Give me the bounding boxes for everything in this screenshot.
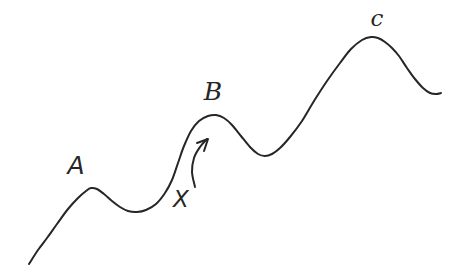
label-peak-b: B	[203, 77, 222, 106]
hand-drawn-sketch-figure: A B c X	[0, 0, 459, 274]
sketch-canvas: A B c X	[0, 0, 459, 274]
label-peak-c: c	[371, 5, 384, 31]
hand-drawn-wavy-curve	[29, 37, 441, 264]
label-peak-a: A	[65, 151, 84, 180]
x-pointer-arrow	[192, 139, 208, 187]
label-x: X	[172, 186, 190, 212]
